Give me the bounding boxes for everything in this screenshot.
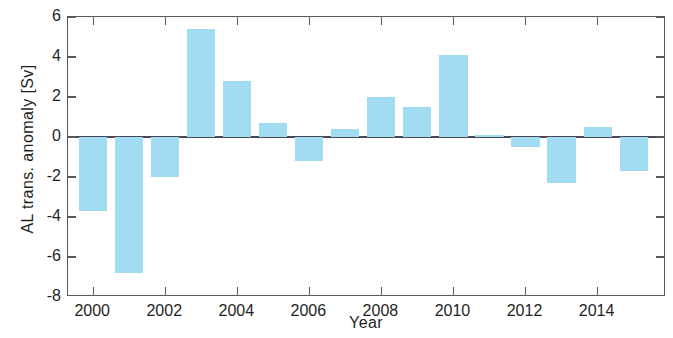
- bar-2015: [620, 137, 648, 171]
- bar-2008: [367, 97, 395, 137]
- x-tick-top-2004: [237, 17, 238, 25]
- bar-2001: [115, 137, 143, 273]
- x-tick-2002: [165, 287, 166, 295]
- bar-2000: [79, 137, 107, 211]
- x-tick-2008: [381, 287, 382, 295]
- bar-2007: [331, 129, 359, 137]
- y-tick--4: [68, 216, 76, 217]
- bar-2004: [223, 81, 251, 137]
- bar-2010: [439, 55, 467, 137]
- y-tick--2: [68, 176, 76, 177]
- y-tick--6: [68, 256, 76, 257]
- bar-2014: [584, 127, 612, 137]
- x-tick-2010: [453, 287, 454, 295]
- y-tick-right--4: [656, 216, 664, 217]
- y-axis-title: AL trans. anomaly [Sv]: [19, 19, 37, 279]
- x-tick-top-2012: [525, 17, 526, 25]
- x-tick-top-2000: [93, 17, 94, 25]
- bar-2003: [187, 29, 215, 137]
- x-tick-2014: [597, 287, 598, 295]
- y-tick-right-0: [656, 136, 664, 137]
- bar-2011: [475, 135, 503, 137]
- y-tick-right-2: [656, 96, 664, 97]
- y-tick-6: [68, 16, 76, 17]
- x-tick-top-2014: [597, 17, 598, 25]
- y-tick-label--8: -8: [5, 288, 61, 304]
- y-tick-right--2: [656, 176, 664, 177]
- bar-2006: [295, 137, 323, 161]
- bar-2013: [547, 137, 575, 183]
- x-tick-2000: [93, 287, 94, 295]
- plot-area: [67, 16, 665, 296]
- y-tick-right-4: [656, 56, 664, 57]
- bar-2009: [403, 107, 431, 137]
- y-tick-right-6: [656, 16, 664, 17]
- x-axis-title: Year: [67, 314, 665, 332]
- y-tick-2: [68, 96, 76, 97]
- figure-canvas: AL trans. anomaly [Sv] 6420-2-4-6-8 2000…: [0, 0, 673, 338]
- x-tick-top-2010: [453, 17, 454, 25]
- bar-2005: [259, 123, 287, 137]
- y-tick-0: [68, 136, 76, 137]
- bar-2002: [151, 137, 179, 177]
- bar-2012: [511, 137, 539, 147]
- y-tick-4: [68, 56, 76, 57]
- x-tick-top-2006: [309, 17, 310, 25]
- x-tick-2004: [237, 287, 238, 295]
- x-tick-2012: [525, 287, 526, 295]
- x-tick-top-2008: [381, 17, 382, 25]
- y-tick-right--6: [656, 256, 664, 257]
- x-tick-2006: [309, 287, 310, 295]
- x-tick-top-2002: [165, 17, 166, 25]
